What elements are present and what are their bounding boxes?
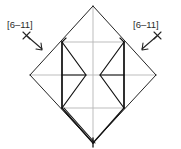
repeat-arrow-right — [142, 32, 161, 50]
step-reference-label-right: [6–11] — [133, 20, 159, 30]
origami-diagram: [6–11] [6–11] — [0, 0, 181, 149]
right-flap — [100, 38, 124, 108]
left-flap — [62, 38, 86, 108]
doubled-edge-bottom-right — [93, 108, 124, 143]
doubled-edge-bottom-left-b — [64, 108, 95, 143]
step-reference-label-left: [6–11] — [7, 20, 33, 30]
doubled-edge-bottom-left-a — [62, 108, 93, 143]
repeat-arrow-left — [23, 32, 42, 50]
